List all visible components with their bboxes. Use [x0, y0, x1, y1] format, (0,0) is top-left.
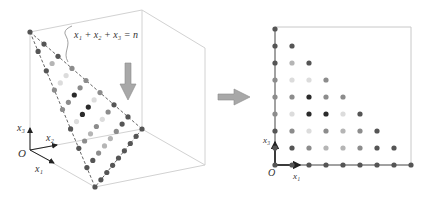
lattice-point — [340, 111, 345, 116]
lattice-point — [76, 146, 81, 151]
lattice-point — [272, 162, 277, 167]
lattice-point — [58, 80, 63, 85]
lattice-point — [272, 111, 277, 116]
lattice-point — [272, 26, 277, 31]
lattice-point — [92, 97, 97, 102]
lattice-point — [110, 163, 115, 168]
simplex-triangle — [30, 32, 142, 187]
origin-label-2d: O — [268, 167, 275, 178]
lattice-point — [94, 124, 99, 129]
lattice-point — [289, 77, 294, 82]
lattice-point — [272, 43, 277, 48]
lattice-point — [357, 111, 362, 116]
lattice-point — [84, 165, 89, 170]
lattice-point — [374, 162, 379, 167]
lattice-point — [289, 111, 294, 116]
lattice-point — [340, 145, 345, 150]
lattice-point — [391, 162, 396, 167]
lattice-point — [289, 145, 294, 150]
lattice-point — [357, 145, 362, 150]
lattice-point — [306, 162, 311, 167]
lattice-point — [306, 60, 311, 65]
lattice-point — [408, 162, 413, 167]
lattice-point — [289, 60, 294, 65]
lattice-point — [102, 143, 107, 148]
lattice-point — [111, 102, 116, 107]
lattice-point — [90, 158, 95, 163]
lattice-point — [289, 94, 294, 99]
lattice-point — [104, 170, 109, 175]
lattice-point — [86, 105, 91, 110]
lattice-point — [122, 148, 127, 153]
lattice-point — [272, 128, 277, 133]
simplex-projection-diagram: x₁ + x₂ + x₃ = n x₃ x₂ x₁ O x₃ x₁ O — [0, 0, 427, 198]
lattice-point — [44, 68, 49, 73]
lattice-point — [82, 138, 87, 143]
lattice-point — [340, 128, 345, 133]
lattice-point — [106, 109, 111, 114]
equation-leader-line — [65, 26, 72, 62]
lattice-point — [357, 128, 362, 133]
lattice-point — [120, 122, 125, 127]
lattice-point — [36, 49, 41, 54]
equation-label: x₁ + x₂ + x₃ = n — [73, 29, 138, 40]
lattice-point — [306, 128, 311, 133]
lattice-point — [41, 42, 46, 47]
lattice-point — [83, 78, 88, 83]
lattice-point — [27, 29, 32, 34]
lattice-point — [74, 119, 79, 124]
lattice-point — [134, 134, 139, 139]
lattice-point — [128, 141, 133, 146]
axes-2d: x₃ x₁ O — [262, 27, 411, 181]
lattice-point — [66, 100, 71, 105]
lattice-point — [374, 128, 379, 133]
lattice-point — [357, 162, 362, 167]
lattice-point — [323, 111, 328, 116]
lattice-point — [340, 94, 345, 99]
lattice-point — [100, 117, 105, 122]
axis-label-x3-2d: x₃ — [262, 135, 270, 145]
lattice-point — [323, 94, 328, 99]
lattice-point — [97, 90, 102, 95]
lattice-point — [60, 107, 65, 112]
lattice-point — [114, 129, 119, 134]
lattice-point — [323, 77, 328, 82]
lattice-point — [306, 111, 311, 116]
right-arrow-icon — [218, 89, 250, 105]
simplex-lattice-points — [27, 29, 144, 189]
lattice-point — [68, 126, 73, 131]
lattice-point — [272, 60, 277, 65]
lattice-point — [52, 88, 57, 93]
lattice-point — [272, 94, 277, 99]
lattice-point — [272, 145, 277, 150]
lattice-point — [272, 77, 277, 82]
projected-lattice-points — [272, 26, 413, 167]
axis-label-x2: x₂ — [45, 132, 54, 143]
axis-label-x1-2d: x₁ — [292, 171, 300, 181]
lattice-point — [374, 145, 379, 150]
lattice-point — [323, 128, 328, 133]
lattice-point — [323, 145, 328, 150]
lattice-point — [323, 162, 328, 167]
lattice-point — [340, 162, 345, 167]
lattice-point — [96, 151, 101, 156]
lattice-point — [88, 131, 93, 136]
lattice-point — [78, 85, 83, 90]
lattice-point — [108, 136, 113, 141]
axes-3d: x₃ x₂ x₁ O — [16, 122, 57, 174]
lattice-point — [289, 162, 294, 167]
axis-label-x1: x₁ — [34, 163, 43, 174]
lattice-point — [391, 145, 396, 150]
lattice-point — [306, 94, 311, 99]
lattice-point — [139, 126, 144, 131]
lattice-point — [69, 66, 74, 71]
down-arrow-icon — [120, 63, 136, 100]
lattice-point — [116, 155, 121, 160]
lattice-point — [92, 184, 97, 189]
lattice-point — [64, 73, 69, 78]
axis-label-x3: x₃ — [16, 122, 25, 133]
lattice-point — [306, 77, 311, 82]
lattice-point — [72, 92, 77, 97]
lattice-point — [306, 145, 311, 150]
lattice-point — [289, 128, 294, 133]
